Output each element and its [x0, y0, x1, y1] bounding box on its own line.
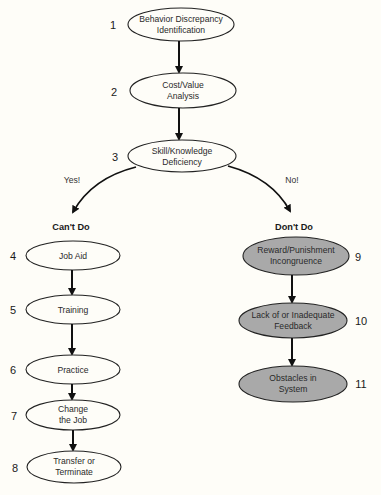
- node-change-job: Change the Job 7: [11, 400, 120, 430]
- node-9-number: 9: [355, 251, 361, 263]
- arrow-no-branch: [228, 166, 290, 211]
- arrow-yes-branch: [73, 167, 136, 212]
- node-4-line1: Job Aid: [59, 251, 87, 261]
- node-behavior-discrepancy: Behavior Discrepancy Identification 1: [110, 8, 234, 41]
- node-11-line2: System: [279, 384, 308, 394]
- node-skill-knowledge: Skill/Knowledge Deficiency 3: [112, 140, 236, 172]
- node-practice: Practice 6: [10, 355, 120, 384]
- node-2-number: 2: [111, 86, 117, 98]
- node-obstacles-system: Obstacles in System 11: [239, 366, 367, 402]
- node-11-number: 11: [355, 378, 366, 390]
- node-6-line1: Practice: [57, 365, 88, 375]
- node-7-line1: Change: [58, 404, 88, 414]
- node-8-line2: Terminate: [55, 467, 93, 477]
- node-6-number: 6: [10, 364, 16, 376]
- node-lack-feedback: Lack of or Inadequate Feedback 10: [239, 303, 367, 338]
- node-training: Training 5: [10, 295, 120, 324]
- flowchart: Behavior Discrepancy Identification 1 Co…: [0, 0, 381, 495]
- node-10-line1: Lack of or Inadequate: [251, 310, 334, 320]
- yes-label: Yes!: [64, 175, 80, 185]
- node-reward-punishment: Reward/Punishment Incongruence 9: [243, 237, 361, 275]
- node-3-line1: Skill/Knowledge: [152, 146, 213, 156]
- node-3-ellipse: [128, 140, 236, 172]
- node-2-line2: Analysis: [167, 91, 199, 101]
- node-8-number: 8: [12, 462, 18, 474]
- node-7-line2: the Job: [59, 415, 87, 425]
- node-transfer-terminate: Transfer or Terminate 8: [12, 451, 121, 483]
- node-10-line2: Feedback: [274, 321, 312, 331]
- node-4-number: 4: [10, 250, 16, 262]
- node-job-aid: Job Aid 4: [10, 241, 120, 270]
- no-label: No!: [285, 175, 298, 185]
- node-1-number: 1: [110, 19, 116, 31]
- node-9-line1: Reward/Punishment: [257, 245, 335, 255]
- node-8-line1: Transfer or: [53, 456, 95, 466]
- node-2-line1: Cost/Value: [162, 80, 204, 90]
- node-5-number: 5: [10, 304, 16, 316]
- dont-do-heading: Don't Do: [275, 222, 313, 232]
- node-3-line2: Deficiency: [162, 157, 202, 167]
- cant-do-heading: Can't Do: [52, 222, 90, 232]
- node-cost-value: Cost/Value Analysis 2: [111, 73, 236, 108]
- node-3-number: 3: [112, 151, 118, 163]
- node-10-number: 10: [355, 315, 367, 327]
- node-7-number: 7: [11, 410, 17, 422]
- node-11-line1: Obstacles in: [269, 373, 317, 383]
- node-5-line1: Training: [58, 305, 89, 315]
- node-9-line2: Incongruence: [270, 256, 322, 266]
- node-1-line1: Behavior Discrepancy: [139, 14, 223, 24]
- node-1-line2: Identification: [157, 25, 205, 35]
